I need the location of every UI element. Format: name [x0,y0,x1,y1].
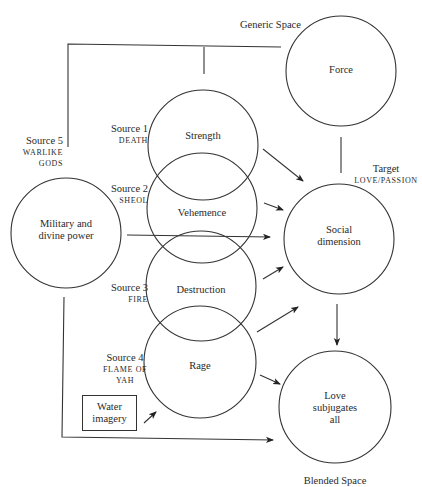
rage-to-social-arrow [257,307,298,332]
destruction-label: Destruction [177,284,226,295]
source-3-title: Source 3 [104,282,148,294]
source-4-subtitle-1: FLAME OF [102,364,148,375]
source-3-label: Source 3 FIRE [104,282,148,305]
water-to-rage-arrow [144,412,156,423]
blended-space-title: Blended Space [304,475,367,486]
source-2-label: Source 2 SHEOL [105,183,148,206]
love-label-2: subjugates [313,402,357,414]
military-label-2: divine power [38,230,93,242]
source-5-title: Source 5 [18,135,63,147]
source-4-label: Source 4 FLAME OF YAH [102,352,148,386]
vehemence-label: Vehemence [178,207,226,218]
love-subjugates-text: Love subjugates all [313,390,357,426]
military-to-social-arrow [127,235,270,237]
military-label-1: Military and [38,218,93,230]
love-label-1: Love [313,390,357,402]
water-label-2: imagery [92,413,126,425]
source-1-label: Source 1 DEATH [110,123,148,146]
generic-space-title: Generic Space [240,19,301,30]
destruction-to-social-arrow [263,267,283,279]
social-label-1: Social [317,224,361,236]
strength-to-social-arrow [263,149,303,181]
strength-label: Strength [185,130,221,141]
social-label-2: dimension [317,236,361,248]
vehemence-to-social-arrow [264,203,283,210]
source-1-subtitle: DEATH [110,135,148,146]
source-5-subtitle-2: GODS [18,158,63,169]
target-subtitle: LOVE/PASSION [350,175,422,186]
water-imagery-box: Water imagery [82,395,137,431]
source-5-label: Source 5 WARLIKE GODS [18,135,63,169]
target-label: Target LOVE/PASSION [350,163,422,186]
source-3-subtitle: FIRE [104,294,148,305]
source-2-subtitle: SHEOL [105,195,148,206]
target-title: Target [350,163,422,175]
rage-text: Rage [189,360,211,372]
destruction-text: Destruction [177,284,226,296]
force-text: Force [329,64,353,76]
strength-circle [148,90,258,200]
strength-text: Strength [185,130,221,142]
source-4-subtitle-2: YAH [102,375,148,386]
source-5-subtitle-1: WARLIKE [18,147,63,158]
vehemence-text: Vehemence [178,207,226,219]
source-1-title: Source 1 [110,123,148,135]
source-2-title: Source 2 [105,183,148,195]
social-dimension-text: Social dimension [317,224,361,248]
generic-space-label: Generic Space [240,19,301,31]
source-4-title: Source 4 [102,352,148,364]
water-label-1: Water [92,401,126,413]
rage-label: Rage [189,360,211,371]
military-text: Military and divine power [38,218,93,242]
top-frame-line [68,44,281,147]
blended-space-label: Blended Space [283,475,387,487]
love-label-3: all [313,414,357,426]
force-label: Force [329,64,353,75]
rage-to-blend-arrow [260,375,280,384]
